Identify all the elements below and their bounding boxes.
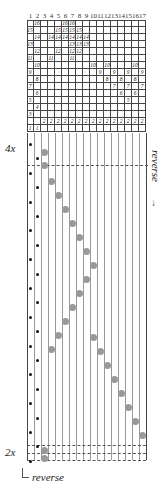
warp-line xyxy=(83,133,84,460)
grid-cell xyxy=(62,62,69,69)
grid-cell xyxy=(55,55,62,62)
grid-cell xyxy=(55,83,62,90)
grid-cell xyxy=(76,111,83,118)
grid-cell xyxy=(104,125,111,132)
grid-cell xyxy=(48,90,55,97)
tie-up-dot xyxy=(29,229,32,232)
grid-cell xyxy=(132,55,139,62)
repeat-2x-label: 2x xyxy=(5,446,15,458)
treadling-mark xyxy=(41,149,48,156)
column-header: 9 xyxy=(83,12,90,20)
grid-cell xyxy=(55,111,62,118)
grid-cell: 6 xyxy=(34,90,41,97)
column-header: 15 xyxy=(125,12,132,20)
grid-cell xyxy=(41,90,48,97)
grid-cell: 13 xyxy=(27,41,34,48)
grid-cell xyxy=(41,27,48,34)
grid-cell: 13 xyxy=(69,41,76,48)
grid-cell xyxy=(139,90,146,97)
column-header: 6 xyxy=(62,12,69,20)
grid-cell xyxy=(90,104,97,111)
column-header: 11 xyxy=(97,12,104,20)
grid-cell: 16 xyxy=(34,20,41,27)
grid-cell xyxy=(41,76,48,83)
grid-cell: 2 xyxy=(104,118,111,125)
treadling-mark xyxy=(55,192,62,199)
grid-cell xyxy=(69,69,76,76)
grid-cell: 7 xyxy=(125,83,132,90)
grid-cell xyxy=(62,83,69,90)
grid-cell xyxy=(83,104,90,111)
tie-up-dot xyxy=(36,417,39,420)
grid-cell xyxy=(118,104,125,111)
column-header: 16 xyxy=(132,12,139,20)
grid-cell xyxy=(97,27,104,34)
grid-cell xyxy=(90,111,97,118)
grid-cell: 5 xyxy=(125,97,132,104)
treadling-mark xyxy=(69,304,76,311)
grid-cell: 2 xyxy=(111,118,118,125)
grid-cell: 14 xyxy=(62,34,69,41)
grid-cell xyxy=(76,125,83,132)
grid-cell xyxy=(48,83,55,90)
tie-up-dot xyxy=(36,359,39,362)
column-header: 7 xyxy=(69,12,76,20)
grid-cell xyxy=(34,111,41,118)
grid-cell: 5 xyxy=(27,97,34,104)
grid-cell: 4 xyxy=(34,104,41,111)
grid-cell xyxy=(139,48,146,55)
grid-cell xyxy=(111,62,118,69)
grid-cell xyxy=(62,48,69,55)
treadling-mark xyxy=(97,348,104,355)
grid-cell xyxy=(97,104,104,111)
grid-cell: 2 xyxy=(139,118,146,125)
grid-cell: 6 xyxy=(118,90,125,97)
grid-cell xyxy=(111,41,118,48)
grid-cell xyxy=(76,90,83,97)
tie-up-dot xyxy=(36,330,39,333)
grid-cell xyxy=(41,104,48,111)
column-header: 5 xyxy=(55,12,62,20)
grid-cell xyxy=(125,62,132,69)
grid-cell xyxy=(90,125,97,132)
tie-up-dot xyxy=(29,431,32,434)
grid-cell xyxy=(69,104,76,111)
grid-cell xyxy=(97,125,104,132)
grid-cell xyxy=(97,48,104,55)
grid-cell: 9 xyxy=(111,69,118,76)
grid-cell xyxy=(97,62,104,69)
grid-cell xyxy=(97,90,104,97)
grid-cell xyxy=(125,104,132,111)
grid-cell xyxy=(55,41,62,48)
grid-cell: 6 xyxy=(132,90,139,97)
grid-cell: 2 xyxy=(83,118,90,125)
treadling-mark xyxy=(48,178,55,185)
grid-cell xyxy=(132,48,139,55)
grid-cell xyxy=(125,76,132,83)
grid-cell xyxy=(132,27,139,34)
grid-cell xyxy=(83,55,90,62)
grid-cell xyxy=(118,55,125,62)
grid-cell xyxy=(34,55,41,62)
warp-line xyxy=(118,133,119,460)
warp-line xyxy=(125,133,126,460)
grid-cell xyxy=(41,69,48,76)
grid-cell xyxy=(48,125,55,132)
warp-line xyxy=(90,133,91,460)
grid-cell xyxy=(27,34,34,41)
grid-cell xyxy=(83,76,90,83)
grid-cell xyxy=(55,62,62,69)
grid-cell xyxy=(139,104,146,111)
grid-cell: 8 xyxy=(118,76,125,83)
grid-cell xyxy=(48,76,55,83)
grid-cell xyxy=(41,62,48,69)
grid-cell: 13 xyxy=(76,41,83,48)
grid-cell xyxy=(97,20,104,27)
grid-cell: 14 xyxy=(76,34,83,41)
grid-cell xyxy=(97,34,104,41)
grid-cell: 14 xyxy=(34,34,41,41)
tie-up-dot xyxy=(29,258,32,261)
treadling-mark xyxy=(90,334,97,341)
grid-cell xyxy=(48,41,55,48)
grid-cell xyxy=(69,62,76,69)
